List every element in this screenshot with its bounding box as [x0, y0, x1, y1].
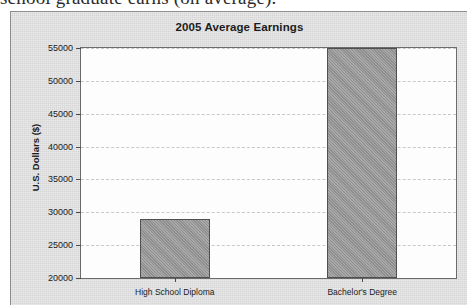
document-page: school graduate earns (on average). 2005…: [0, 0, 467, 305]
chart-figure-panel: 2005 Average Earnings U.S. Dollars ($) 2…: [10, 11, 467, 305]
gridline: [81, 147, 456, 148]
bar-1: [140, 219, 210, 278]
y-axis-title: U.S. Dollars ($): [30, 98, 41, 218]
y-axis-tick-mark: [76, 179, 81, 180]
gridline: [81, 114, 456, 115]
y-axis-tick-mark: [76, 147, 81, 148]
x-axis-tick-label: High School Diploma: [135, 287, 214, 297]
gridline: [81, 81, 456, 82]
y-axis-tick-mark: [76, 81, 81, 82]
chart-title: 2005 Average Earnings: [11, 21, 467, 33]
y-axis-tick-mark: [76, 114, 81, 115]
gridline: [81, 179, 456, 180]
gridline: [81, 48, 456, 49]
x-axis-tick-mark: [362, 278, 363, 282]
y-axis-tick-label: 45000: [48, 109, 73, 119]
y-axis-tick-mark: [76, 278, 81, 279]
x-axis-tick-label: Bachelor's Degree: [327, 287, 397, 297]
bar-2: [327, 48, 397, 278]
y-axis-tick-label: 35000: [48, 174, 73, 184]
y-axis-tick-label: 30000: [48, 207, 73, 217]
y-axis-tick-mark: [76, 245, 81, 246]
clipped-body-text: school graduate earns (on average).: [0, 0, 467, 9]
y-axis-tick-mark: [76, 212, 81, 213]
gridline: [81, 245, 456, 246]
y-axis-tick-label: 25000: [48, 240, 73, 250]
y-axis-tick-label: 40000: [48, 142, 73, 152]
plot-area: 2000025000300003500040000450005000055000…: [80, 47, 457, 279]
y-axis-tick-mark: [76, 48, 81, 49]
gridline: [81, 212, 456, 213]
x-axis-tick-mark: [175, 278, 176, 282]
y-axis-tick-label: 50000: [48, 76, 73, 86]
y-axis-tick-label: 20000: [48, 273, 73, 283]
y-axis-tick-label: 55000: [48, 43, 73, 53]
